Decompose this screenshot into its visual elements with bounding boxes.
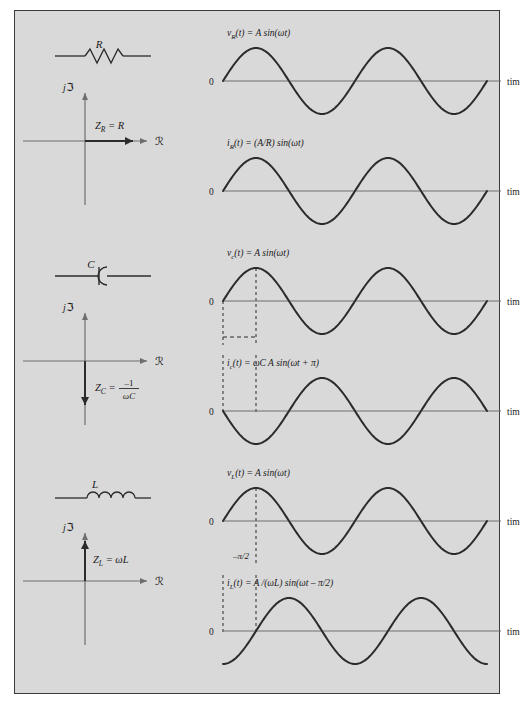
waveform-vr: vR(t) = A sin(ωt)0time <box>201 27 515 127</box>
phase-annotation: –π/2 <box>232 551 250 561</box>
zero-label: 0 <box>209 297 214 307</box>
zero-label: 0 <box>209 627 214 637</box>
impedance-label-resistor: ZR = R <box>95 120 125 134</box>
phasor-diagram-imaginary-negative: jℑℛZC = –1ωC <box>23 295 193 425</box>
equation-ir: iR(t) = (A/R) sin(ωt) <box>227 138 304 151</box>
resistor-label: R <box>95 38 103 50</box>
inductor-symbol: L <box>55 479 151 505</box>
impedance-label-capacitor: ZC = <box>95 382 116 396</box>
equation-vc: vc(t) = A sin(ωt) <box>227 248 289 261</box>
time-axis-label: time <box>507 187 520 197</box>
time-axis-label: time <box>507 77 520 87</box>
time-axis-label: time <box>507 517 520 527</box>
capacitor-label: C <box>87 258 95 270</box>
equation-vr: vR(t) = A sin(ωt) <box>227 28 290 41</box>
waveform-il: iL(t) = A /(ωL) sin(ωt – π/2)0time <box>201 577 515 677</box>
waveform-ic: ic(t) = ωC A sin(ωt + π)0time <box>201 357 515 457</box>
imaginary-axis-label: jℑ <box>61 521 74 533</box>
waveform-vc: vc(t) = A sin(ωt)0time <box>201 247 515 347</box>
resistor-symbol: R <box>55 39 151 65</box>
time-axis-label: time <box>507 407 520 417</box>
time-axis-label: time <box>507 627 520 637</box>
equation-ic: ic(t) = ωC A sin(ωt + π) <box>227 358 319 371</box>
zero-label: 0 <box>209 517 214 527</box>
phasor-diagram-real-positive: jℑℛZR = R <box>23 75 193 205</box>
real-axis-label: ℛ <box>155 355 164 367</box>
impedance-numerator: –1 <box>124 378 134 388</box>
imaginary-axis-label: jℑ <box>61 81 74 93</box>
zero-label: 0 <box>209 407 214 417</box>
impedance-denominator: ωC <box>123 391 136 401</box>
real-axis-label: ℛ <box>155 135 164 147</box>
impedance-label-inductor: ZL = ωL <box>93 554 129 568</box>
phasor-diagram-imaginary-positive: jℑℛZL = ωL <box>23 515 193 645</box>
figure-panel: RjℑℛZR = RvR(t) = A sin(ωt)0timeiR(t) = … <box>14 10 500 694</box>
real-axis-label: ℛ <box>155 575 164 587</box>
zero-label: 0 <box>209 77 214 87</box>
equation-il: iL(t) = A /(ωL) sin(ωt – π/2) <box>227 578 333 591</box>
inductor-label: L <box>91 478 98 490</box>
zero-label: 0 <box>209 187 214 197</box>
imaginary-axis-label: jℑ <box>61 301 74 313</box>
capacitor-symbol: C <box>55 259 151 285</box>
time-axis-label: time <box>507 297 520 307</box>
waveform-vl: vL(t) = A sin(ωt)0time–π/2 <box>201 467 515 567</box>
waveform-ir: iR(t) = (A/R) sin(ωt)0time <box>201 137 515 237</box>
equation-vl: vL(t) = A sin(ωt) <box>227 468 290 481</box>
